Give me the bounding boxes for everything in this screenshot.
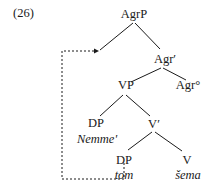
arrowhead-icon xyxy=(94,49,99,54)
node-agr-head: Agr° xyxy=(176,78,200,92)
node-agr-bar: Agr′ xyxy=(154,52,176,66)
branch-agrp-agrbar xyxy=(135,23,160,49)
node-v-bar: V′ xyxy=(148,117,160,131)
movement-arrow xyxy=(62,51,124,179)
branch-vp-dp xyxy=(100,95,123,116)
word-subject: Nemme' xyxy=(77,132,117,146)
word-object: tom xyxy=(115,168,134,182)
node-agrp: AgrP xyxy=(121,7,147,21)
tree-branches xyxy=(0,0,211,186)
node-v-head: V xyxy=(182,153,191,167)
branch-vbar-v xyxy=(155,132,182,151)
branch-vbar-dp xyxy=(128,132,152,150)
branch-agrbar-vp xyxy=(131,68,161,82)
node-dp-object: DP xyxy=(116,153,132,167)
branch-agrp-spec xyxy=(100,23,133,50)
branch-vp-vbar xyxy=(126,95,150,116)
node-dp-subject: DP xyxy=(88,116,104,130)
node-vp: VP xyxy=(118,78,134,92)
word-verb: šema xyxy=(175,168,201,182)
